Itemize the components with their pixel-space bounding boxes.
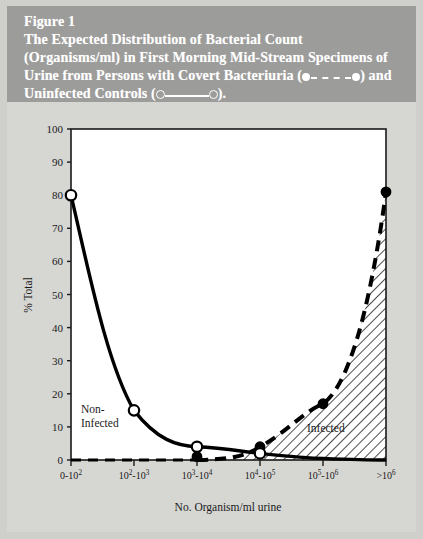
figure-label: Figure 1 xyxy=(24,12,416,30)
figure-title-line-3: Urine from Persons with Covert Bacteriur… xyxy=(24,66,416,84)
data-point-infected-4 xyxy=(318,398,329,409)
figure-container: Figure 1 The Expected Distribution of Ba… xyxy=(0,0,423,539)
legend-uninfected-icon xyxy=(156,89,218,102)
data-point-infected-5 xyxy=(381,186,392,197)
annotation-infected: Infected xyxy=(307,422,345,434)
figure-title-line-4: Uninfected Controls (). xyxy=(24,84,416,102)
data-point-uninfected-1 xyxy=(129,405,139,415)
y-tick-label-0: 0 xyxy=(58,454,64,466)
figure-title-line-2: (Organisms/ml) in First Morning Mid-Stre… xyxy=(24,48,416,66)
figure-title-banner: Figure 1 The Expected Distribution of Ba… xyxy=(7,6,416,102)
figure-title-line-3-tail: ) and xyxy=(360,67,391,83)
x-tick-label-2: 103-104 xyxy=(182,469,213,481)
chart-svg: 100 90 80 70 60 xyxy=(7,102,416,532)
chart-area: 100 90 80 70 60 xyxy=(7,102,416,532)
figure-title-line-1: The Expected Distribution of Bacterial C… xyxy=(24,30,416,48)
y-tick-label-10: 10 xyxy=(52,421,64,433)
y-tick-label-20: 20 xyxy=(52,388,64,400)
x-tick-label-3: 104-105 xyxy=(245,469,276,481)
data-point-uninfected-3 xyxy=(255,448,265,458)
y-tick-label-60: 60 xyxy=(52,255,64,267)
y-tick-label-30: 30 xyxy=(52,355,64,367)
data-point-uninfected-0 xyxy=(66,190,76,200)
y-tick-label-80: 80 xyxy=(52,189,64,201)
y-tick-label-90: 90 xyxy=(52,156,64,168)
y-tick-label-50: 50 xyxy=(52,289,64,301)
figure-title-line-4-tail: ). xyxy=(218,85,226,101)
x-tick-label-1: 102-103 xyxy=(119,469,150,481)
y-tick-label-70: 70 xyxy=(52,222,64,234)
data-point-uninfected-2 xyxy=(192,442,202,452)
x-axis-title: No. Organism/ml urine xyxy=(175,501,282,514)
legend-infected-icon xyxy=(302,71,360,84)
y-tick-label-100: 100 xyxy=(47,123,64,135)
figure-title-line-3-text: Urine from Persons with Covert Bacteriur… xyxy=(24,67,302,83)
y-axis-title: % Total xyxy=(22,277,34,313)
y-tick-label-40: 40 xyxy=(52,322,64,334)
x-tick-label-4: 105-106 xyxy=(308,469,339,481)
figure-title-line-4-text: Uninfected Controls ( xyxy=(24,85,156,101)
